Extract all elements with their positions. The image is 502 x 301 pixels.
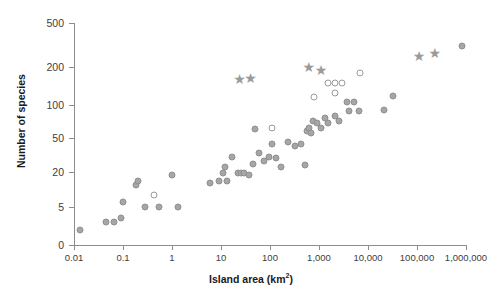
y-tick-mark [69, 105, 74, 106]
data-point-filled-circle [221, 163, 228, 170]
data-point-filled-circle [252, 126, 259, 133]
x-tick-mark [319, 245, 320, 250]
y-tick-mark [69, 245, 74, 246]
x-tick-mark [123, 245, 124, 250]
data-point-filled-circle [345, 108, 352, 115]
data-point-filled-circle [336, 117, 343, 124]
x-tick-label: 100 [262, 252, 278, 263]
x-tick-mark [74, 245, 75, 250]
x-axis-title-text: Island area (km [209, 273, 285, 285]
data-point-filled-circle [229, 153, 236, 160]
y-tick-label: 100 [46, 99, 64, 111]
y-tick-label: 0 [58, 239, 64, 251]
x-tick-mark [221, 245, 222, 250]
x-tick-label: 10,000 [353, 252, 382, 263]
data-point-filled-circle [272, 155, 279, 162]
y-tick-label: 500 [46, 17, 64, 29]
data-point-filled-circle [302, 162, 309, 169]
data-point-star: ★ [314, 63, 328, 77]
x-tick-label: 1,000 [307, 252, 331, 263]
y-tick-label: 20 [52, 166, 64, 178]
data-point-open-circle [331, 89, 338, 96]
x-tick-label: 10 [216, 252, 227, 263]
data-point-open-circle [357, 70, 364, 77]
data-point-filled-circle [141, 204, 148, 211]
x-tick-label: 0.01 [65, 252, 84, 263]
data-point-filled-circle [117, 215, 124, 222]
x-tick-mark [368, 245, 369, 250]
x-tick-mark [466, 245, 467, 250]
data-point-open-circle [338, 79, 345, 86]
y-tick-label: 5 [58, 201, 64, 213]
data-point-open-circle [150, 192, 157, 199]
y-tick-label: 200 [46, 61, 64, 73]
data-point-filled-circle [223, 178, 230, 185]
data-point-filled-circle [298, 141, 305, 148]
data-point-filled-circle [250, 160, 257, 167]
data-point-filled-circle [284, 138, 291, 145]
x-axis-title: Island area (km2) [0, 272, 502, 285]
x-tick-mark [270, 245, 271, 250]
y-tick-label: 50 [52, 132, 64, 144]
data-point-filled-circle [355, 108, 362, 115]
data-point-filled-circle [318, 124, 325, 131]
data-point-open-circle [324, 79, 331, 86]
x-tick-label: 100,000 [400, 252, 434, 263]
x-tick-label: 0.1 [116, 252, 129, 263]
data-point-filled-circle [269, 141, 276, 148]
y-tick-mark [69, 172, 74, 173]
data-point-filled-circle [174, 204, 181, 211]
data-point-filled-circle [277, 163, 284, 170]
data-point-filled-circle [103, 219, 110, 226]
x-tick-mark [172, 245, 173, 250]
x-tick-label: 1,000,000 [445, 252, 487, 263]
data-point-open-circle [311, 94, 318, 101]
data-point-filled-circle [324, 120, 331, 127]
y-tick-mark [69, 138, 74, 139]
data-point-filled-circle [390, 92, 397, 99]
data-point-filled-circle [207, 179, 214, 186]
data-point-filled-circle [215, 178, 222, 185]
y-tick-mark [69, 67, 74, 68]
data-point-filled-circle [110, 219, 117, 226]
data-point-filled-circle [76, 226, 83, 233]
scatter-chart: 0.010.11101001,00010,000100,0001,000,000… [0, 0, 502, 301]
data-point-filled-circle [380, 107, 387, 114]
data-point-filled-circle [134, 178, 141, 185]
data-point-filled-circle [246, 171, 253, 178]
x-axis-title-close: ) [289, 273, 293, 285]
data-point-open-circle [269, 124, 276, 131]
data-point-star: ★ [428, 46, 442, 60]
x-tick-mark [417, 245, 418, 250]
y-tick-mark [69, 23, 74, 24]
data-point-filled-circle [351, 99, 358, 106]
data-point-star: ★ [412, 49, 426, 63]
x-tick-label: 1 [169, 252, 174, 263]
data-point-filled-circle [156, 204, 163, 211]
data-point-star: ★ [244, 71, 258, 85]
data-point-filled-circle [169, 171, 176, 178]
y-tick-mark [69, 207, 74, 208]
data-point-filled-circle [256, 150, 263, 157]
data-point-filled-circle [220, 170, 227, 177]
y-axis-title: Number of species [15, 56, 27, 186]
y-axis-line [74, 23, 75, 245]
data-point-filled-circle [458, 42, 465, 49]
data-point-filled-circle [308, 130, 315, 137]
data-point-filled-circle [120, 199, 127, 206]
